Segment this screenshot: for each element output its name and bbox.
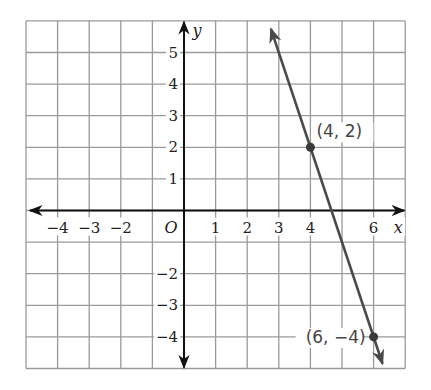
y-tick-label: 5 xyxy=(168,44,178,62)
y-tick-label: −2 xyxy=(156,265,178,283)
point-label: (4, 2) xyxy=(316,121,362,141)
grid xyxy=(26,21,405,369)
y-tick-label: −3 xyxy=(156,296,178,314)
x-tick-label: 1 xyxy=(211,219,221,237)
x-tick-label: −2 xyxy=(110,219,132,237)
x-tick-label: 3 xyxy=(274,219,284,237)
data-line xyxy=(271,29,383,364)
y-tick-label: −4 xyxy=(156,328,178,346)
y-tick-label: 4 xyxy=(168,75,178,93)
tick-labels: −4−3−21234654321−2−3−4Oxy xyxy=(45,21,406,348)
x-axis-label: x xyxy=(394,218,403,237)
data-point xyxy=(306,143,315,152)
x-tick-label: 2 xyxy=(242,219,252,237)
axes xyxy=(30,22,404,368)
point-label: (6, −4) xyxy=(306,327,366,347)
origin-label: O xyxy=(164,218,177,237)
line-series xyxy=(271,29,383,364)
x-tick-label: 6 xyxy=(369,219,379,237)
coordinate-plane: −4−3−21234654321−2−3−4Oxy (4, 2)(6, −4) xyxy=(0,0,431,390)
x-tick-label: −4 xyxy=(47,219,69,237)
data-point xyxy=(369,332,378,341)
y-axis-label: y xyxy=(191,21,202,40)
y-tick-label: 3 xyxy=(168,107,178,125)
y-tick-label: 2 xyxy=(168,138,178,156)
x-tick-label: 4 xyxy=(306,219,316,237)
y-tick-label: 1 xyxy=(168,170,178,188)
x-tick-label: −3 xyxy=(78,219,100,237)
